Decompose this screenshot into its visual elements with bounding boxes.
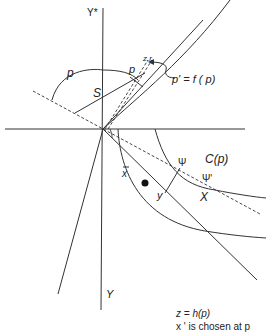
- psi-label: Ψ: [178, 157, 186, 168]
- s-label: S: [93, 86, 101, 100]
- c-p-label: C(p): [205, 152, 228, 166]
- diagram-canvas: Y* Y p p S z,r p' = f ( p) x y Ψ Ψ' C(p)…: [0, 0, 267, 334]
- z-prime-label: z,r: [142, 54, 152, 63]
- x-big-label: X: [199, 190, 209, 204]
- point-dot: [142, 180, 149, 187]
- s-line: [75, 73, 145, 113]
- caption-line-2: x ' is chosen at p: [176, 321, 251, 332]
- p-arc-label: p: [66, 66, 74, 80]
- caption-line-1: z = h(p): [175, 308, 210, 319]
- ray-lower-left: [58, 129, 103, 294]
- vertical-axis: [101, 8, 103, 310]
- y-segment: [165, 168, 180, 193]
- p-prime-equation: p' = f ( p): [171, 73, 216, 85]
- x-bar-label: x: [121, 168, 128, 179]
- ray-lower-right: [103, 129, 257, 280]
- y-star-label: Y*: [87, 7, 98, 18]
- y-small-label: y: [156, 189, 164, 201]
- y-label: Y: [106, 288, 114, 300]
- psi-prime-label: Ψ': [202, 173, 212, 184]
- p-point-label: p: [128, 63, 135, 75]
- cone-upper-curve: [103, 0, 230, 129]
